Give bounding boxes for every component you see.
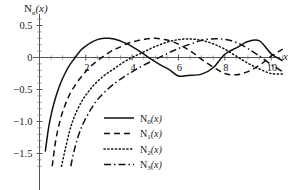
- y-tick-label: −0.5: [13, 84, 32, 95]
- x-tick-label: 6: [177, 62, 182, 73]
- plot-canvas: 246810 0.50−0.5−1.0−1.5 x Nn(x) N0(x)N1(…: [0, 0, 296, 190]
- y-tick-label: −1.0: [13, 116, 32, 127]
- legend-label-2: N2(x): [140, 144, 163, 157]
- y-axis-tick-labels: 0.50−0.5−1.0−1.5: [13, 20, 32, 159]
- neumann-functions-figure: 246810 0.50−0.5−1.0−1.5 x Nn(x) N0(x)N1(…: [0, 0, 296, 190]
- y-tick-label: 0: [27, 52, 32, 63]
- y-tick-label: 0.5: [19, 20, 32, 31]
- legend: N0(x)N1(x)N2(x)N3(x): [104, 113, 163, 173]
- svg-text:Nn(x): Nn(x): [24, 2, 48, 17]
- legend-item-1: N1(x): [104, 128, 163, 141]
- legend-item-0: N0(x): [104, 113, 163, 126]
- legend-label-0: N0(x): [140, 113, 163, 126]
- x-tick-label: 2: [84, 62, 89, 73]
- x-tick-label: 8: [223, 62, 228, 73]
- curve-N0x: [45, 38, 282, 151]
- legend-item-2: N2(x): [104, 144, 163, 157]
- x-axis-ticks: [51, 55, 283, 61]
- y-axis-title: Nn(x): [24, 2, 48, 17]
- x-tick-label: 10: [267, 62, 278, 73]
- x-tick-label: 4: [131, 62, 137, 73]
- legend-item-3: N3(x): [104, 159, 163, 172]
- legend-label-1: N1(x): [140, 128, 163, 141]
- x-axis-title: x: [282, 50, 288, 62]
- y-tick-label: −1.5: [13, 148, 32, 159]
- legend-label-3: N3(x): [140, 159, 163, 172]
